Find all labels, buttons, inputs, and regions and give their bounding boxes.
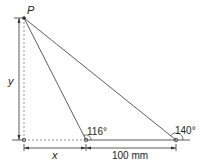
base-label: x xyxy=(51,149,58,161)
y-arrow-bottom xyxy=(18,135,21,140)
y-arrow-top xyxy=(18,18,21,23)
angle-near-label: 116° xyxy=(87,126,107,137)
geometry-diagram: P y x 100 mm 116° 140° xyxy=(0,0,201,165)
height-label: y xyxy=(7,75,15,87)
point-p-label: P xyxy=(27,4,35,16)
distance-arrow-left xyxy=(86,147,91,150)
angle-far-label: 140° xyxy=(175,125,196,136)
sight-line-far xyxy=(24,18,176,140)
distance-label: 100 mm xyxy=(112,150,148,161)
sight-line-near xyxy=(24,18,86,140)
x-arrow-right xyxy=(81,147,86,150)
point-p xyxy=(22,16,26,20)
distance-arrow-right xyxy=(171,147,176,150)
x-arrow-left xyxy=(24,147,29,150)
